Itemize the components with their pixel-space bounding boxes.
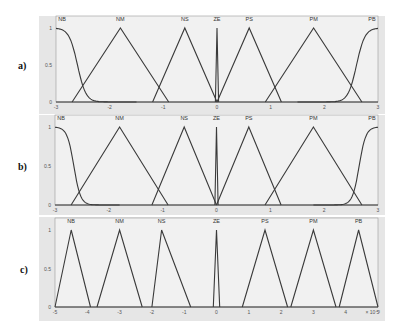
- membership-function-charts: -3-2-1012300.51NBNMNSZEPSPMPB -3-2-10123…: [0, 0, 394, 334]
- x-tick-label: 2: [323, 104, 326, 110]
- mf-label-pm: PM: [309, 16, 318, 22]
- x-tick-label: 4: [344, 309, 347, 315]
- x-tick-label: -4: [85, 309, 90, 315]
- x-scale-note: × 10⁻³: [365, 309, 380, 315]
- mf-label-ze: ZE: [213, 115, 220, 121]
- mf-label-ps: PS: [245, 115, 253, 121]
- x-tick-label: -2: [150, 309, 155, 315]
- y-tick-label: 0: [49, 99, 52, 105]
- mf-label-pb: PB: [368, 16, 376, 22]
- x-tick-label: -1: [160, 207, 165, 213]
- mf-label-pm: PM: [309, 115, 318, 121]
- y-tick-label: 0: [48, 202, 51, 208]
- x-tick-label: 0: [215, 309, 218, 315]
- mf-label-pb: PB: [368, 115, 376, 121]
- mf-label-nb: NB: [67, 218, 75, 224]
- mf-label-nb: NB: [58, 16, 66, 22]
- y-tick-label: 0: [48, 304, 51, 310]
- x-tick-label: 3: [312, 309, 315, 315]
- chart-a: -3-2-1012300.51NBNMNSZEPSPMPB: [45, 16, 380, 110]
- x-tick-label: 2: [280, 309, 283, 315]
- mf-label-ze: ZE: [213, 16, 220, 22]
- mf-label-ns: NS: [181, 16, 189, 22]
- x-tick-label: -3: [117, 309, 122, 315]
- x-tick-label: -3: [53, 207, 58, 213]
- x-tick-label: 0: [215, 207, 218, 213]
- x-tick-label: 1: [269, 207, 272, 213]
- mf-label-pm: PM: [309, 218, 318, 224]
- mf-label-ns: NS: [158, 218, 166, 224]
- mf-label-pb: PB: [355, 218, 363, 224]
- chart-b: -3-2-1012300.51NBNMNSZEPSPMPB: [44, 115, 380, 213]
- mf-label-nb: NB: [57, 115, 65, 121]
- x-tick-label: -5: [53, 309, 58, 315]
- mf-label-ps: PS: [246, 16, 254, 22]
- x-tick-label: 3: [377, 104, 380, 110]
- x-tick-label: -1: [161, 104, 166, 110]
- y-tick-label: 0.5: [45, 62, 52, 68]
- x-tick-label: -2: [107, 104, 112, 110]
- mf-label-nm: NM: [115, 115, 124, 121]
- mf-label-ze: ZE: [213, 218, 220, 224]
- x-tick-label: 0: [216, 104, 219, 110]
- x-tick-label: 1: [269, 104, 272, 110]
- mf-label-nm: NM: [116, 16, 125, 22]
- x-tick-label: 3: [377, 207, 380, 213]
- y-tick-label: 1: [48, 124, 51, 130]
- x-tick-label: 2: [323, 207, 326, 213]
- x-tick-label: -1: [182, 309, 187, 315]
- mf-label-ps: PS: [261, 218, 269, 224]
- x-tick-label: -2: [107, 207, 112, 213]
- y-tick-label: 1: [49, 25, 52, 31]
- y-tick-label: 0.5: [44, 266, 51, 272]
- y-tick-label: 0.5: [44, 163, 51, 169]
- mf-label-ns: NS: [180, 115, 188, 121]
- chart-c: -5-4-3-2-1012345× 10⁻³00.51NBNMNSZEPSPMP…: [44, 218, 380, 315]
- x-tick-label: 1: [247, 309, 250, 315]
- y-tick-label: 1: [48, 227, 51, 233]
- mf-label-nm: NM: [115, 218, 124, 224]
- x-tick-label: -3: [54, 104, 59, 110]
